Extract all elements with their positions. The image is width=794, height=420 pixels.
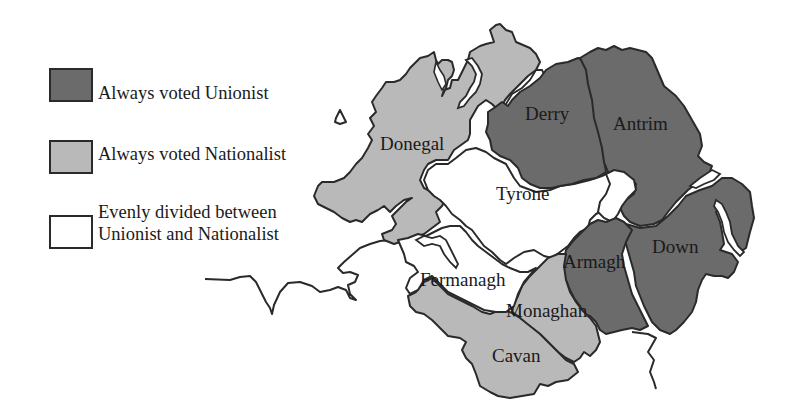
label-antrim: Antrim xyxy=(613,113,668,134)
label-down: Down xyxy=(652,236,699,257)
label-cavan: Cavan xyxy=(492,345,541,366)
label-monaghan: Monaghan xyxy=(506,300,588,321)
ulster-voting-map: Always voted Unionist Always voted Natio… xyxy=(0,0,794,420)
map-svg: Donegal Derry Antrim Tyrone Fermanagh Ar… xyxy=(0,0,794,420)
label-tyrone: Tyrone xyxy=(496,183,550,204)
label-derry: Derry xyxy=(525,103,570,124)
label-armagh: Armagh xyxy=(563,251,626,272)
label-donegal: Donegal xyxy=(380,133,444,154)
river-south xyxy=(632,332,656,389)
label-fermanagh: Fermanagh xyxy=(420,269,506,290)
coastline-west xyxy=(205,238,398,314)
island-icon xyxy=(335,110,346,124)
